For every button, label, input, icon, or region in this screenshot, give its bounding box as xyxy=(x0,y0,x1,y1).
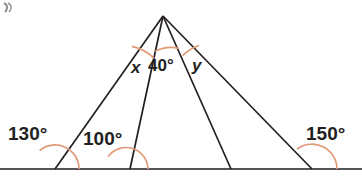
arc-150-icon xyxy=(297,144,337,169)
angle-label-40: 40° xyxy=(148,57,174,74)
arc-40-icon xyxy=(155,47,178,51)
arc-100-icon xyxy=(108,148,148,169)
geometry-figure: 130° 100° 150° x 40° y xyxy=(0,0,362,177)
angle-label-y: y xyxy=(192,57,201,74)
diagram-canvas xyxy=(0,0,362,177)
angle-label-150: 150° xyxy=(306,124,345,143)
angle-label-100: 100° xyxy=(83,129,122,148)
angle-label-130: 130° xyxy=(8,124,47,143)
ray-apex-to-D xyxy=(163,16,312,169)
angle-label-x: x xyxy=(131,59,140,76)
arc-130-icon xyxy=(40,145,79,169)
corner-mark-icon xyxy=(2,2,14,14)
corner-question-marker xyxy=(2,0,14,12)
ray-apex-to-C xyxy=(163,16,231,169)
